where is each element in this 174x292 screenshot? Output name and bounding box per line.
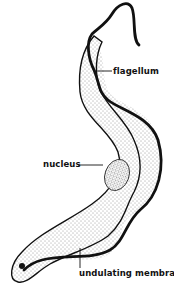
label-undulating-membrane: undulating membrane xyxy=(79,269,174,278)
trypanosome-diagram xyxy=(0,0,174,292)
label-nucleus: nucleus xyxy=(43,160,81,169)
label-flagellum: flagellum xyxy=(113,67,159,76)
kinetoplast-dot xyxy=(19,263,25,269)
